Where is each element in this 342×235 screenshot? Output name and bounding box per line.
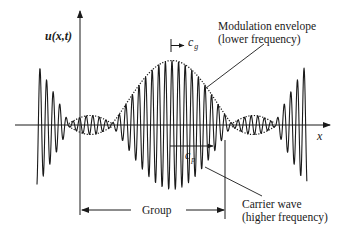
phase-velocity-symbol: c xyxy=(185,148,190,162)
carrier-annotation: Carrier wave (higher frequency) xyxy=(242,198,328,224)
carrier-leader-line xyxy=(205,167,262,196)
wave-packet-diagram: u(x,t) x cg cp Modulation envelope (lowe… xyxy=(0,0,342,235)
group-velocity-symbol: c xyxy=(188,35,193,49)
phase-velocity-subscript: p xyxy=(191,155,195,164)
phase-velocity-label: cp xyxy=(185,149,194,161)
x-axis-label: x xyxy=(317,130,322,142)
carrier-annotation-line1: Carrier wave xyxy=(242,198,328,211)
envelope-annotation-line2: (lower frequency) xyxy=(218,33,316,46)
envelope-annotation: Modulation envelope (lower frequency) xyxy=(218,20,316,46)
envelope-leader-line xyxy=(206,44,264,88)
envelope-annotation-line1: Modulation envelope xyxy=(218,20,316,33)
y-axis-label: u(x,t) xyxy=(45,30,72,42)
carrier-annotation-line2: (higher frequency) xyxy=(242,211,328,224)
group-velocity-subscript: g xyxy=(194,42,198,51)
group-velocity-label: cg xyxy=(188,36,197,48)
group-label: Group xyxy=(142,204,171,217)
